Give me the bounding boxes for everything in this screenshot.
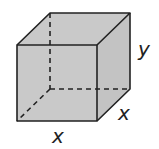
label-depth-x: x bbox=[118, 103, 130, 123]
label-width-x: x bbox=[52, 126, 64, 146]
cube-diagram bbox=[0, 0, 159, 149]
label-height-y: y bbox=[138, 39, 150, 59]
